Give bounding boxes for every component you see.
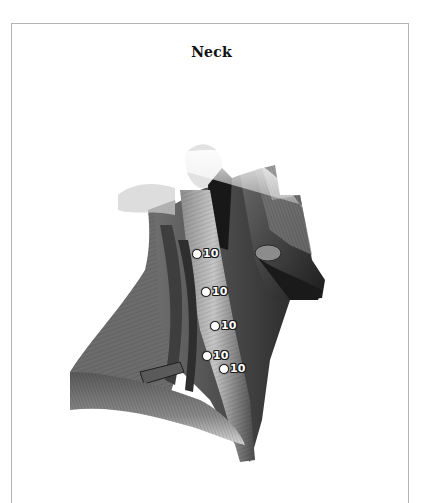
point-label: 10 bbox=[203, 248, 218, 259]
point-label: 10 bbox=[213, 350, 228, 361]
submandibular-gland bbox=[255, 245, 281, 261]
point-marker-2: 10 bbox=[201, 286, 227, 297]
point-dot-icon bbox=[219, 364, 229, 374]
point-marker-5: 10 bbox=[219, 363, 245, 374]
point-dot-icon bbox=[202, 351, 212, 361]
point-label: 10 bbox=[221, 320, 236, 331]
point-dot-icon bbox=[210, 321, 220, 331]
point-label: 10 bbox=[212, 286, 227, 297]
point-label: 10 bbox=[230, 363, 245, 374]
point-marker-3: 10 bbox=[210, 320, 236, 331]
point-marker-1: 10 bbox=[192, 248, 218, 259]
point-dot-icon bbox=[192, 249, 202, 259]
point-dot-icon bbox=[201, 287, 211, 297]
point-marker-4: 10 bbox=[202, 350, 228, 361]
